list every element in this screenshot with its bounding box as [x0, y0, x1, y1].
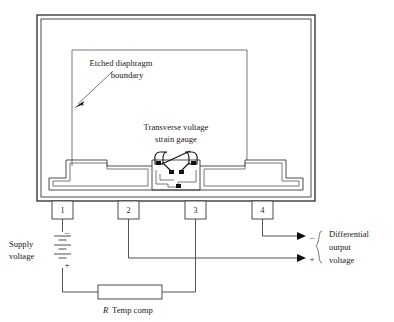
- output-negative-arrowhead: [297, 232, 306, 240]
- supply-label-line2: voltage: [9, 251, 34, 261]
- terminal-2-number: 2: [127, 206, 131, 215]
- resistor-body: [98, 285, 162, 299]
- supply-voltage-source: – + Supply voltage: [9, 227, 71, 270]
- diaphragm-label-line2: boundary: [111, 70, 144, 80]
- output-positive-arrowhead: [297, 254, 306, 262]
- gauge-label-line1: Transverse voltage: [144, 122, 209, 132]
- output-label-line3: voltage: [329, 255, 354, 265]
- supply-negative-sign: –: [64, 227, 70, 237]
- terminal-3[interactable]: 3: [185, 201, 206, 219]
- temp-comp-resistor: R Temp comp: [98, 285, 162, 315]
- output-label-line2: output: [329, 242, 352, 252]
- gauge-label-line2: strain gauge: [155, 134, 197, 144]
- diaphragm-label-line1: Etched diaphragm: [90, 58, 153, 68]
- gauge-pad-bottom-center: [176, 184, 181, 188]
- gauge-pad-upper-left: [156, 161, 161, 165]
- output-positive-sign: +: [309, 254, 314, 264]
- die-outer-body: [37, 15, 315, 201]
- wire-battery-to-resistor: [63, 268, 99, 292]
- diagram-canvas: Etched diaphragm boundary Transverse vol…: [0, 0, 394, 322]
- terminal-4[interactable]: 4: [252, 201, 273, 219]
- wire-terminal4-to-negative-output: [263, 219, 299, 236]
- external-wiring: [63, 219, 299, 292]
- terminal-1[interactable]: 1: [52, 201, 73, 219]
- output-curly-brace: [316, 231, 322, 263]
- terminal-3-number: 3: [194, 206, 198, 215]
- terminal-4-number: 4: [261, 206, 265, 215]
- terminal-pads: 1 2 3 4: [52, 201, 273, 219]
- output-negative-sign: –: [309, 232, 315, 242]
- wire-terminal3-to-resistor: [162, 219, 196, 292]
- differential-output: – + Differential output voltage: [297, 229, 370, 265]
- pressure-sensor-diagram: Etched diaphragm boundary Transverse vol…: [0, 0, 394, 322]
- gauge-pad-lower-right: [179, 170, 184, 174]
- terminal-2[interactable]: 2: [118, 201, 139, 219]
- supply-label-line1: Supply: [9, 239, 34, 249]
- output-label-line1: Differential: [329, 229, 370, 239]
- resistor-label: Temp comp: [112, 305, 153, 315]
- die-outer-border: [37, 15, 315, 201]
- wire-terminal2-to-positive-output: [129, 219, 299, 258]
- gauge-pad-upper-right: [191, 161, 196, 165]
- terminal-1-number: 1: [61, 206, 65, 215]
- gauge-pad-lower-left: [169, 170, 174, 174]
- supply-positive-sign: +: [64, 260, 69, 270]
- resistor-symbol: R: [102, 305, 109, 315]
